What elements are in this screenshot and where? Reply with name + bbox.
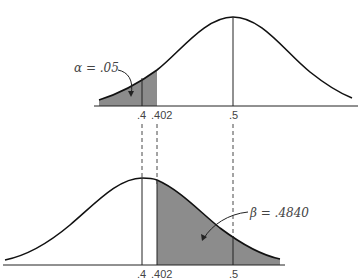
power-diagram: α = .05 .4 .402 .5 β = .4840 .4 .402 .5 bbox=[0, 0, 358, 280]
null-distribution-panel: α = .05 .4 .402 .5 bbox=[74, 17, 358, 121]
bottom-tick-0402: .402 bbox=[151, 268, 172, 280]
top-tick-05: .5 bbox=[229, 109, 238, 121]
beta-label: β = .4840 bbox=[249, 206, 309, 220]
alternative-distribution-panel: β = .4840 .4 .402 .5 bbox=[3, 178, 309, 280]
top-tick-0402: .402 bbox=[151, 109, 172, 121]
top-tick-04: .4 bbox=[137, 109, 146, 121]
bottom-tick-04: .4 bbox=[137, 268, 146, 280]
alpha-label: α = .05 bbox=[74, 61, 119, 75]
bottom-tick-05: .5 bbox=[229, 268, 238, 280]
